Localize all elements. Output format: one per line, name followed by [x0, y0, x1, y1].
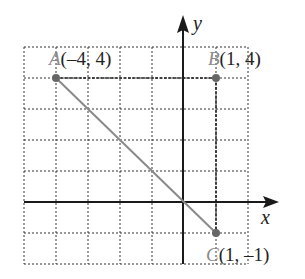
x-axis-label: x — [261, 207, 270, 227]
point-b — [212, 74, 220, 82]
point-a-name: A — [49, 48, 61, 69]
point-a — [52, 74, 60, 82]
point-b-coords: (1, 4) — [220, 48, 261, 69]
label-point-a: A(–4, 4) — [49, 49, 111, 68]
point-b-name: B — [208, 48, 220, 69]
point-c — [212, 229, 220, 237]
label-point-c: C(1, –1) — [206, 245, 269, 264]
point-c-name: C — [206, 244, 219, 265]
coordinate-plane-svg — [0, 0, 305, 279]
point-a-coords: (–4, 4) — [61, 48, 112, 69]
coordinate-plane-diagram: A(–4, 4) B(1, 4) C(1, –1) y x — [0, 0, 305, 279]
segment-ac — [56, 78, 216, 233]
label-point-b: B(1, 4) — [208, 49, 261, 68]
point-c-coords: (1, –1) — [219, 244, 270, 265]
y-axis-label: y — [193, 13, 202, 33]
